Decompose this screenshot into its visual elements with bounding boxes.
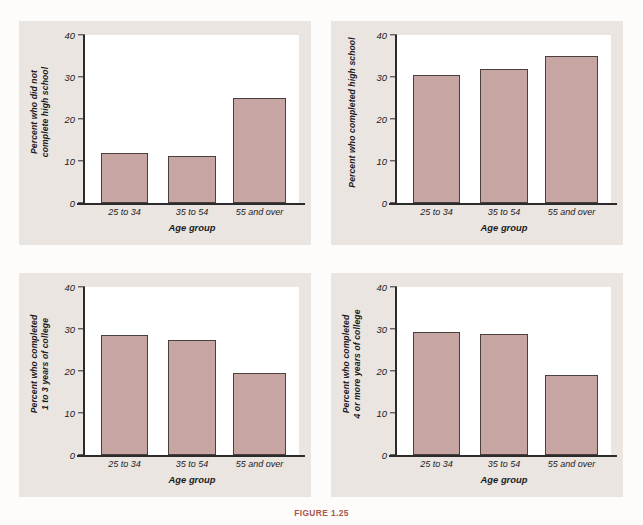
bar-series xyxy=(397,35,611,203)
y-axis-tick-label: 0 xyxy=(361,198,387,209)
x-axis-tick-label: 35 to 54 xyxy=(488,459,521,469)
x-axis-title: Age group xyxy=(85,474,299,485)
bar xyxy=(233,373,287,455)
y-axis-tick-label: 10 xyxy=(49,156,75,167)
y-axis-tick-mark xyxy=(390,76,397,77)
y-axis-tick-label: 0 xyxy=(49,198,75,209)
panel-completed-1-to-3-years-college: Percent who completed1 to 3 years of col… xyxy=(19,273,311,497)
bar xyxy=(480,69,527,203)
y-axis-tick-label: 10 xyxy=(49,408,75,419)
y-axis-tick-mark xyxy=(390,160,397,161)
x-axis-tick-label: 25 to 34 xyxy=(108,207,141,217)
y-axis-tick-mark xyxy=(78,34,85,35)
plot-area-wrapper: Percent who completed high school 010203… xyxy=(331,21,623,245)
y-axis-tick-mark xyxy=(390,328,397,329)
x-axis-title: Age group xyxy=(85,222,299,233)
y-axis-tick-label: 30 xyxy=(361,324,387,335)
y-axis-tick-mark xyxy=(390,412,397,413)
panel-did-not-complete-high-school: Percent who did notcomplete high school … xyxy=(19,21,311,245)
x-axis-tick-labels: 25 to 3435 to 5455 and over xyxy=(397,459,611,473)
y-axis-tick-labels: 010203040 xyxy=(49,35,75,203)
y-axis-tick-label: 40 xyxy=(49,282,75,293)
bar xyxy=(413,332,460,455)
x-axis-tick-label: 55 and over xyxy=(236,207,284,217)
y-axis-tick-mark xyxy=(78,118,85,119)
bar-series xyxy=(397,287,611,455)
y-axis-tick-labels: 010203040 xyxy=(49,287,75,455)
plot-area-wrapper: Percent who completed1 to 3 years of col… xyxy=(19,273,311,497)
figure-caption-label: FIGURE 1.25 xyxy=(294,508,349,518)
x-axis-line xyxy=(77,203,305,205)
figure-caption: FIGURE 1.25 xyxy=(0,508,643,518)
y-axis-tick-mark xyxy=(390,286,397,287)
y-axis-tick-label: 0 xyxy=(361,450,387,461)
y-axis-spine xyxy=(77,287,85,455)
x-axis-tick-labels: 25 to 3435 to 5455 and over xyxy=(397,207,611,221)
x-axis-tick-label: 55 and over xyxy=(548,207,596,217)
bar xyxy=(545,375,599,455)
bar xyxy=(168,156,215,203)
y-axis-tick-mark xyxy=(78,370,85,371)
y-axis-tick-label: 20 xyxy=(49,114,75,125)
x-axis-tick-labels: 25 to 3435 to 5455 and over xyxy=(85,459,299,473)
y-axis-tick-label: 10 xyxy=(361,156,387,167)
y-axis-tick-label: 20 xyxy=(361,114,387,125)
y-axis-tick-mark xyxy=(78,412,85,413)
y-axis-tick-label: 30 xyxy=(49,72,75,83)
y-axis-tick-label: 20 xyxy=(361,366,387,377)
y-axis-tick-label: 40 xyxy=(49,30,75,41)
x-axis-title: Age group xyxy=(397,474,611,485)
y-axis-spine xyxy=(77,35,85,203)
y-axis-tick-label: 10 xyxy=(361,408,387,419)
x-axis-tick-label: 35 to 54 xyxy=(488,207,521,217)
y-axis-tick-label: 20 xyxy=(49,366,75,377)
panel-completed-high-school: Percent who completed high school 010203… xyxy=(331,21,623,245)
y-axis-title-text: Percent who completed high school xyxy=(347,37,358,187)
plot-area xyxy=(85,287,299,455)
x-axis-tick-label: 55 and over xyxy=(548,459,596,469)
y-axis-tick-label: 0 xyxy=(49,450,75,461)
plot-area xyxy=(397,287,611,455)
y-axis-tick-mark xyxy=(78,160,85,161)
x-axis-tick-label: 55 and over xyxy=(236,459,284,469)
bar xyxy=(101,153,148,203)
x-axis-tick-label: 25 to 34 xyxy=(420,459,453,469)
y-axis-tick-mark xyxy=(78,76,85,77)
y-axis-tick-labels: 010203040 xyxy=(361,287,387,455)
bar xyxy=(168,340,215,455)
y-axis-tick-mark xyxy=(78,328,85,329)
y-axis-tick-label: 30 xyxy=(361,72,387,83)
y-axis-spine xyxy=(389,35,397,203)
x-axis-tick-label: 25 to 34 xyxy=(420,207,453,217)
y-axis-tick-mark xyxy=(78,286,85,287)
bar xyxy=(233,98,287,203)
y-axis-tick-labels: 010203040 xyxy=(361,35,387,203)
panel-completed-4-or-more-years-college: Percent who completed4 or more years of … xyxy=(331,273,623,497)
plot-area-wrapper: Percent who completed4 or more years of … xyxy=(331,273,623,497)
x-axis-line xyxy=(77,455,305,457)
y-axis-title-text: Percent who did notcomplete high school xyxy=(29,67,51,157)
x-axis-tick-labels: 25 to 3435 to 5455 and over xyxy=(85,207,299,221)
bar xyxy=(101,335,148,455)
y-axis-title-text: Percent who completed1 to 3 years of col… xyxy=(29,315,51,414)
bar xyxy=(545,56,599,203)
bar xyxy=(480,334,527,455)
y-axis-tick-label: 40 xyxy=(361,30,387,41)
x-axis-line xyxy=(389,203,617,205)
x-axis-line xyxy=(389,455,617,457)
plot-area xyxy=(397,35,611,203)
y-axis-tick-label: 40 xyxy=(361,282,387,293)
plot-area xyxy=(85,35,299,203)
y-axis-tick-mark xyxy=(390,118,397,119)
plot-area-wrapper: Percent who did notcomplete high school … xyxy=(19,21,311,245)
y-axis-title-text: Percent who completed4 or more years of … xyxy=(341,309,363,418)
x-axis-tick-label: 35 to 54 xyxy=(176,459,209,469)
figure-four-panel-bar-charts: Percent who did notcomplete high school … xyxy=(0,0,643,525)
bar-series xyxy=(85,35,299,203)
y-axis-tick-mark xyxy=(390,370,397,371)
bar xyxy=(413,75,460,203)
x-axis-title: Age group xyxy=(397,222,611,233)
x-axis-tick-label: 35 to 54 xyxy=(176,207,209,217)
x-axis-tick-label: 25 to 34 xyxy=(108,459,141,469)
y-axis-tick-label: 30 xyxy=(49,324,75,335)
